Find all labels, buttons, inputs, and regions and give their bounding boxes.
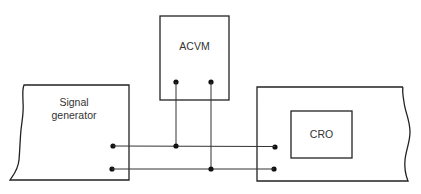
cro-unit: CRO bbox=[257, 87, 410, 181]
junction-top bbox=[173, 143, 178, 148]
acvm-unit: ACVM bbox=[160, 16, 229, 100]
wiring bbox=[112, 82, 275, 172]
cro-label: CRO bbox=[310, 128, 333, 140]
circuit-diagram: ACVM Signal generator CRO bbox=[0, 0, 421, 194]
signal-generator-unit: Signal generator bbox=[10, 85, 129, 180]
acvm-box bbox=[160, 16, 229, 100]
cro-unit-box bbox=[257, 87, 410, 181]
acvm-label: ACVM bbox=[179, 40, 209, 52]
top-wire bbox=[113, 146, 275, 147]
signal-generator-label-line2: generator bbox=[52, 109, 97, 121]
cro-terminal-top bbox=[272, 144, 277, 149]
junction-bottom bbox=[208, 166, 213, 171]
signal-generator-label-line1: Signal bbox=[59, 96, 88, 108]
